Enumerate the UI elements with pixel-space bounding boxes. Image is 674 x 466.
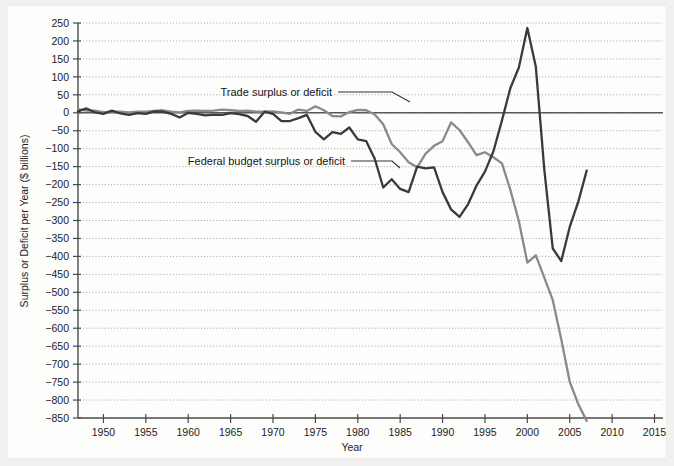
y-tick-label: 200: [51, 35, 69, 47]
y-tick-label: 150: [51, 53, 69, 65]
x-tick-label: 1960: [177, 426, 201, 438]
x-axis-title: Year: [341, 441, 363, 453]
y-tick-label: −50: [51, 124, 69, 136]
x-tick-label: 2015: [643, 426, 667, 438]
x-tick-label: 2010: [600, 426, 624, 438]
y-tick-label: −200: [45, 178, 69, 190]
y-axis-ticks: 250200150100500−50−100−150−200−250−300−3…: [45, 17, 81, 424]
y-tick-label: 100: [51, 71, 69, 83]
x-tick-label: 1980: [346, 426, 370, 438]
x-tick-label: 1975: [304, 426, 328, 438]
series-lines: [78, 28, 587, 421]
page-root: 250200150100500−50−100−150−200−250−300−3…: [0, 0, 674, 466]
y-tick-label: −700: [45, 358, 69, 370]
x-tick-label: 1970: [261, 426, 285, 438]
y-tick-label: 0: [63, 106, 69, 118]
budget-series-label: Federal budget surplus or deficit: [188, 155, 345, 167]
series-line-trade: [78, 106, 587, 421]
y-tick-label: −250: [45, 196, 69, 208]
y-tick-label: −650: [45, 340, 69, 352]
y-tick-label: −350: [45, 232, 69, 244]
y-tick-label: 250: [51, 17, 69, 29]
x-tick-label: 1955: [134, 426, 158, 438]
y-tick-label: −150: [45, 160, 69, 172]
x-tick-label: 1990: [431, 426, 455, 438]
y-tick-label: −500: [45, 286, 69, 298]
y-tick-label: −850: [45, 412, 69, 424]
y-axis-title: Surplus or Deficit per Year ($ billions): [18, 135, 30, 308]
y-tick-label: −300: [45, 214, 69, 226]
x-tick-label: 1995: [473, 426, 497, 438]
trade-label-leader-icon: [338, 92, 410, 102]
y-tick-label: −800: [45, 394, 69, 406]
x-tick-label: 2005: [558, 426, 582, 438]
y-tick-label: −550: [45, 304, 69, 316]
y-tick-label: −450: [45, 268, 69, 280]
chart-figure: 250200150100500−50−100−150−200−250−300−3…: [0, 0, 674, 466]
trade-series-label: Trade surplus or deficit: [221, 86, 332, 98]
y-tick-label: −600: [45, 322, 69, 334]
y-tick-label: 50: [57, 89, 69, 101]
chart-canvas: 250200150100500−50−100−150−200−250−300−3…: [0, 0, 674, 466]
series-line-federal-budget: [78, 28, 587, 261]
x-tick-label: 1985: [388, 426, 412, 438]
x-tick-label: 2000: [516, 426, 540, 438]
x-tick-label: 1950: [92, 426, 116, 438]
y-tick-label: −100: [45, 142, 69, 154]
x-tick-label: 1965: [219, 426, 243, 438]
y-tick-label: −400: [45, 250, 69, 262]
y-tick-label: −750: [45, 376, 69, 388]
